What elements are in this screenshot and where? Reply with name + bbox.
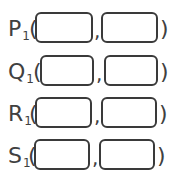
- q1-y-input[interactable]: [106, 57, 156, 84]
- point-label-q1: Q1: [8, 59, 34, 92]
- point-label-p1: P1: [8, 16, 30, 49]
- point-row-q1: Q1 ( , ): [0, 55, 178, 91]
- s1-y-input[interactable]: [101, 141, 153, 168]
- point-row-r1: R1 ( , ): [0, 97, 178, 133]
- p1-y-input-box[interactable]: [101, 12, 158, 43]
- p1-x-input[interactable]: [37, 14, 91, 41]
- r1-x-input-box[interactable]: [35, 97, 92, 128]
- close-paren: ): [160, 59, 169, 85]
- s1-x-input-box[interactable]: [34, 139, 90, 170]
- comma: ,: [92, 145, 98, 171]
- r1-y-input-box[interactable]: [101, 97, 157, 128]
- q1-x-input[interactable]: [42, 57, 92, 84]
- q1-y-input-box[interactable]: [104, 55, 158, 86]
- r1-x-input[interactable]: [37, 99, 90, 126]
- s1-y-input-box[interactable]: [99, 139, 155, 170]
- q1-x-input-box[interactable]: [40, 55, 94, 86]
- comma: ,: [94, 103, 100, 129]
- point-letter: P: [8, 16, 21, 41]
- comma: ,: [94, 18, 100, 44]
- s1-x-input[interactable]: [36, 141, 88, 168]
- close-paren: ): [159, 101, 168, 127]
- p1-y-input[interactable]: [103, 14, 156, 41]
- point-letter: S: [8, 143, 22, 168]
- point-row-s1: S1 ( , ): [0, 139, 178, 175]
- point-row-p1: P1 ( , ): [0, 12, 178, 48]
- point-letter: R: [8, 101, 23, 126]
- r1-y-input[interactable]: [103, 99, 155, 126]
- close-paren: ): [157, 143, 166, 169]
- point-letter: Q: [8, 59, 25, 84]
- p1-x-input-box[interactable]: [35, 12, 93, 43]
- comma: ,: [96, 61, 102, 87]
- close-paren: ): [160, 16, 169, 42]
